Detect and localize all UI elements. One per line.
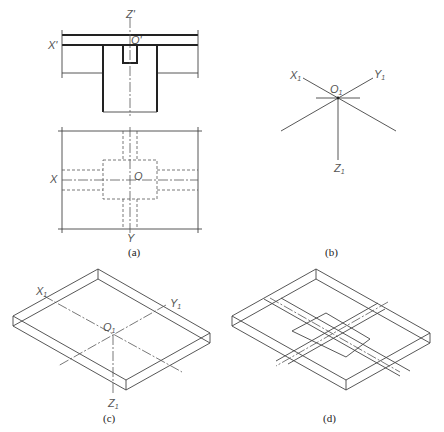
z1-label: Z1 — [333, 162, 345, 175]
caption-c: (c) — [103, 412, 116, 425]
y1-label-c: Y1 — [170, 297, 181, 310]
panel-d-slab: (d) — [232, 269, 430, 425]
panel-a-elevation: Z' X' O' — [47, 8, 198, 116]
y-label: Y — [127, 232, 135, 244]
y1-label: Y1 — [374, 68, 385, 81]
x1-label: X1 — [289, 69, 301, 82]
panel-c-slab: X1 Y1 O1 Z1 (c) — [13, 269, 210, 425]
caption-a: (a) — [128, 246, 141, 259]
o-label: O — [134, 170, 143, 182]
x1-label-c: X1 — [35, 285, 47, 298]
x-prime-label: X' — [47, 39, 58, 51]
o-prime-label: O' — [131, 34, 143, 46]
x-label: X — [49, 173, 58, 185]
z1-label-c: Z1 — [107, 397, 119, 410]
panel-b-axes: X1 Y1 O1 Z1 (b) — [281, 68, 396, 259]
o1-label-c: O1 — [103, 321, 116, 334]
o1-label: O1 — [330, 83, 343, 96]
technical-drawing: Z' X' O' X O Y (a) X1 Y1 — [0, 0, 444, 432]
caption-d: (d) — [323, 412, 336, 425]
z-prime-label: Z' — [125, 8, 136, 20]
caption-b: (b) — [325, 246, 338, 259]
panel-a-plan: X O Y (a) — [49, 127, 202, 259]
